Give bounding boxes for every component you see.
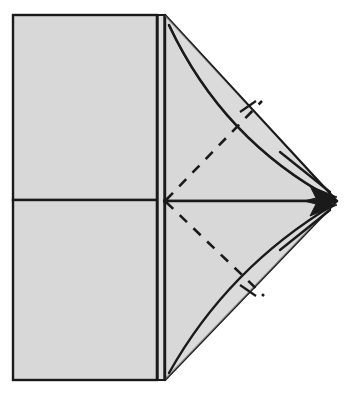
left-paper-panel [13, 15, 165, 380]
left-panel-upper-half [13, 15, 157, 200]
center-point-dot [163, 199, 167, 203]
origami-diagram-svg [0, 0, 356, 406]
center-reference-point [163, 199, 167, 203]
left-panel-lower-half [13, 200, 157, 380]
origami-diagram-root [0, 0, 356, 406]
